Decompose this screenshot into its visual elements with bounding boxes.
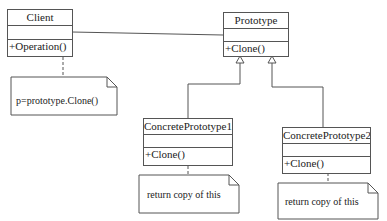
class-attributes [144,135,232,148]
note-concrete1-text: return copy of this [147,189,221,200]
class-operation: +Operation() [8,40,72,53]
class-name: Prototype [224,13,288,29]
inheritance-arrow-icon [268,56,276,63]
class-concrete-prototype-1[interactable]: ConcretePrototype1 +Clone() [143,118,233,166]
class-attributes [283,144,370,157]
class-operation: +Clone() [283,157,370,170]
class-name: ConcretePrototype2 [283,128,370,144]
note-concrete2-text: return copy of this [285,196,359,207]
class-client[interactable]: Client +Operation() [7,9,73,57]
class-concrete-prototype-2[interactable]: ConcretePrototype2 +Clone() [282,127,371,174]
inheritance-arrow-icon [236,56,244,63]
class-name: Client [8,10,72,26]
class-name: ConcretePrototype1 [144,119,232,135]
class-attributes [8,26,72,40]
association-line [72,32,223,35]
class-operation: +Clone() [224,42,288,55]
note-client-text: p=prototype.Clone() [16,95,98,106]
class-attributes [224,29,288,42]
generalization-line-1 [188,63,240,118]
generalization-line-2 [272,63,323,127]
class-prototype[interactable]: Prototype +Clone() [223,12,289,57]
class-operation: +Clone() [144,148,232,161]
